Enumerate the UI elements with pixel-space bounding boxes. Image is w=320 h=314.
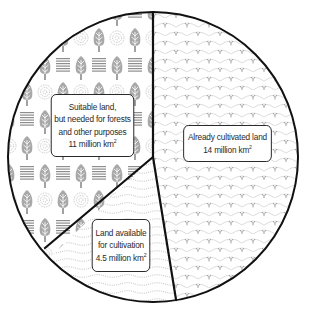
label-line: and other purposes (58, 126, 126, 138)
label-line: Already cultivated land (188, 131, 267, 143)
label-value: 4.5 million km2 (96, 252, 147, 264)
label-land-available: Land available for cultivation 4.5 milli… (92, 219, 150, 272)
label-line: for cultivation (98, 239, 144, 251)
label-line: Suitable land, (69, 101, 117, 113)
label-line: but needed for forests (54, 113, 130, 125)
label-suitable-forests: Suitable land, but needed for forests an… (51, 94, 134, 157)
label-already-cultivated: Already cultivated land 14 million km2 (183, 125, 272, 162)
label-value: 11 million km2 (69, 138, 117, 150)
label-value: 14 million km2 (203, 144, 252, 156)
label-line: Land available (96, 227, 147, 239)
